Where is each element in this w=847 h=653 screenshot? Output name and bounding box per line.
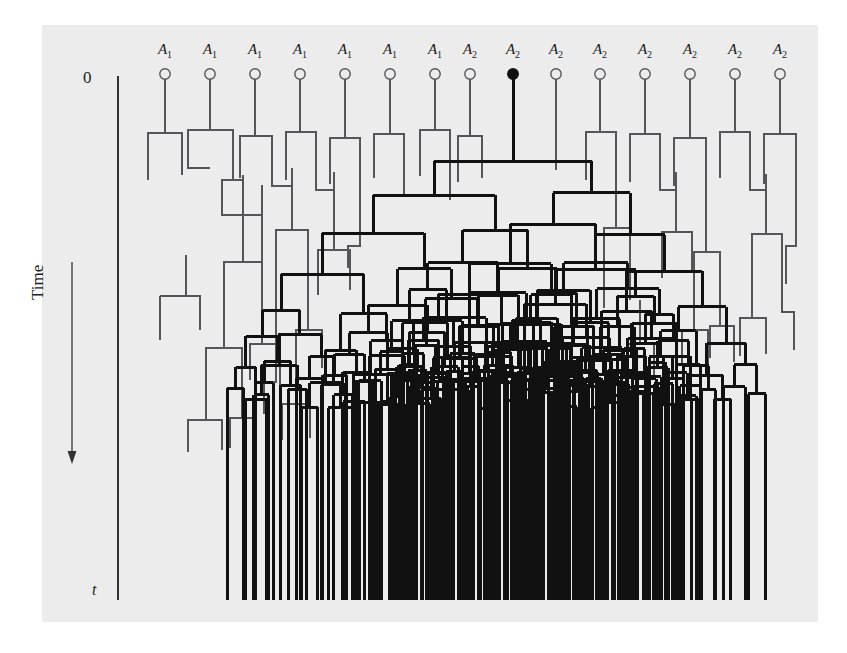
founder-label-11: A2 — [638, 41, 652, 60]
founder-label-10: A2 — [593, 41, 607, 60]
founder-label-4: A1 — [338, 41, 352, 60]
founder-circle-open — [160, 69, 170, 79]
faded-lineage-16 — [243, 262, 262, 300]
founder-allele-subscript: 2 — [515, 49, 520, 60]
faded-lineage-27 — [296, 272, 308, 372]
founder-circle-open — [730, 69, 740, 79]
faded-lineage-4 — [222, 180, 262, 215]
founder-allele-subscript: 1 — [167, 49, 172, 60]
axis-tick-zero: 0 — [83, 68, 92, 88]
founder-allele-subscript: 2 — [602, 49, 607, 60]
faded-lineage-52 — [676, 232, 692, 272]
founder-circle-open — [385, 69, 395, 79]
faded-lineage-11 — [374, 126, 390, 178]
time-arrow-head — [68, 451, 77, 464]
faded-lineage-19 — [292, 230, 308, 272]
faded-lineage-7 — [286, 124, 300, 180]
faded-lineage-45 — [720, 124, 735, 178]
faded-lineage-2 — [188, 122, 210, 168]
faded-lineage-32 — [230, 418, 242, 448]
founder-allele-letter: A — [638, 41, 647, 57]
founder-circle-open — [595, 69, 605, 79]
founder-allele-letter: A — [248, 41, 257, 57]
founder-label-12: A2 — [683, 41, 697, 60]
faded-lineage-41 — [630, 126, 645, 182]
axis-tick-t: t — [92, 581, 96, 599]
founder-allele-subscript: 2 — [472, 49, 477, 60]
axis-title-time: Time — [28, 265, 48, 300]
founder-circle-open — [205, 69, 215, 79]
faded-lineage-48 — [780, 134, 796, 196]
founder-circle-open — [295, 69, 305, 79]
founder-allele-subscript: 1 — [347, 49, 352, 60]
faded-lineage-56 — [766, 234, 782, 276]
faded-lineage-46 — [735, 132, 766, 190]
founder-label-1: A1 — [203, 41, 217, 60]
founder-allele-subscript: 1 — [437, 49, 442, 60]
founder-allele-letter: A — [549, 41, 558, 57]
faded-lineage-3 — [210, 130, 243, 180]
faded-lineage-70 — [470, 136, 482, 178]
faded-lineage-5 — [240, 128, 255, 178]
founder-circle-open — [640, 69, 650, 79]
faded-lineage-36 — [160, 296, 200, 330]
faded-lineage-69 — [458, 128, 470, 182]
faded-lineage-40 — [600, 132, 616, 176]
founder-allele-letter: A — [683, 41, 692, 57]
faded-lineage-10 — [345, 138, 360, 268]
founder-label-9: A2 — [549, 41, 563, 60]
founder-allele-subscript: 2 — [737, 49, 742, 60]
faded-lineage-1 — [165, 133, 182, 175]
founder-label-3: A1 — [293, 41, 307, 60]
founder-label-8: A2 — [506, 41, 520, 60]
faded-lineage-15 — [224, 175, 243, 300]
faded-lineage-63 — [752, 318, 766, 354]
founder-label-14: A2 — [773, 41, 787, 60]
founder-circle-open — [465, 69, 475, 79]
founder-allele-letter: A — [773, 41, 782, 57]
faded-lineage-22 — [206, 300, 224, 390]
faded-lineage-8 — [300, 132, 334, 190]
faded-lineage-23 — [224, 348, 242, 382]
founder-tips-group — [160, 69, 785, 160]
faded-lineage-29 — [188, 390, 206, 452]
founder-label-7: A2 — [463, 41, 477, 60]
founder-allele-letter: A — [158, 41, 167, 57]
founder-allele-letter: A — [203, 41, 212, 57]
founder-circle-open — [551, 69, 561, 79]
faded-lineage-13 — [420, 122, 435, 176]
founder-allele-letter: A — [293, 41, 302, 57]
faded-lineage-54 — [706, 252, 720, 288]
founder-allele-subscript: 2 — [558, 49, 563, 60]
founder-circle-open — [250, 69, 260, 79]
founder-allele-letter: A — [338, 41, 347, 57]
surviving-lineage-group — [227, 112, 766, 600]
founder-label-2: A1 — [248, 41, 262, 60]
founder-allele-letter: A — [428, 41, 437, 57]
founder-allele-subscript: 2 — [782, 49, 787, 60]
faded-lineage-12 — [390, 134, 404, 196]
faded-lineage-30 — [206, 420, 222, 450]
founder-circle-open — [340, 69, 350, 79]
founder-circle-open — [685, 69, 695, 79]
founder-label-6: A1 — [428, 41, 442, 60]
faded-lineage-9 — [330, 130, 345, 184]
genealogy-figure — [0, 0, 847, 653]
founder-label-0: A1 — [158, 41, 172, 60]
founder-allele-letter: A — [506, 41, 515, 57]
faded-lineage-64 — [782, 276, 794, 350]
faded-lineage-14 — [435, 130, 450, 200]
founder-allele-subscript: 1 — [212, 49, 217, 60]
founder-allele-letter: A — [463, 41, 472, 57]
faded-lineage-49 — [604, 176, 616, 268]
founder-circle-open — [430, 69, 440, 79]
founder-allele-subscript: 1 — [392, 49, 397, 60]
faded-lineage-18 — [276, 168, 292, 280]
founder-allele-subscript: 2 — [647, 49, 652, 60]
faded-lineage-44 — [690, 138, 706, 196]
faded-lineage-53 — [694, 196, 706, 290]
founder-allele-letter: A — [593, 41, 602, 57]
founder-allele-subscript: 1 — [257, 49, 262, 60]
founder-allele-subscript: 1 — [302, 49, 307, 60]
founder-allele-letter: A — [383, 41, 392, 57]
